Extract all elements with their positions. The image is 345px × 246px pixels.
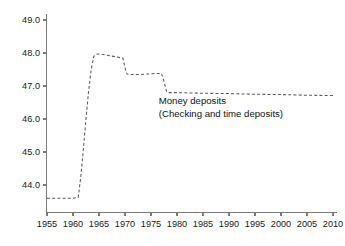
series-line-money-deposits [47,54,333,198]
x-tick-label: 1980 [167,219,187,229]
y-tick-label: 46.0 [22,114,40,124]
annotation-line-2: (Checking and time deposits) [159,108,283,119]
y-tick-label: 47.0 [22,81,40,91]
x-tick-label: 1955 [37,219,57,229]
y-axis: 44.045.046.047.048.049.0 [22,14,46,213]
chart-container: 44.045.046.047.048.049.0 195519601965197… [0,0,345,246]
x-tick-label: 1970 [115,219,135,229]
x-tick-label: 2000 [271,219,291,229]
chart-annotations: Money deposits(Checking and time deposit… [159,95,283,119]
y-tick-label: 45.0 [22,147,40,157]
data-series-group [47,54,333,198]
x-tick-label: 1975 [141,219,161,229]
x-tick-label: 1960 [63,219,83,229]
x-tick-label: 1990 [219,219,239,229]
y-tick-label: 48.0 [22,48,40,58]
x-tick-label: 1965 [89,219,109,229]
x-tick-label: 1995 [245,219,265,229]
annotation-line-1: Money deposits [159,95,226,106]
x-tick-label: 2010 [323,219,343,229]
y-tick-label: 44.0 [22,180,40,190]
x-tick-label: 1985 [193,219,213,229]
x-axis: 1955196019651970197519801985199019952000… [37,213,343,229]
y-tick-label: 49.0 [22,15,40,25]
chart-plot-svg: 44.045.046.047.048.049.0 195519601965197… [0,0,345,246]
x-tick-label: 2005 [297,219,317,229]
